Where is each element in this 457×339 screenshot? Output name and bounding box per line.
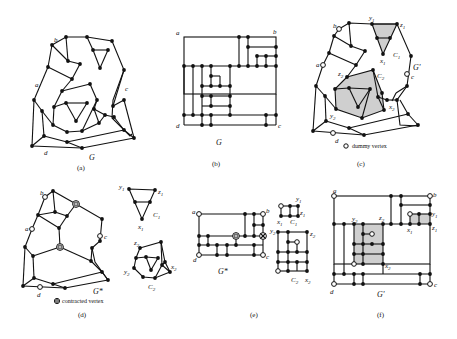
dummy-vertex-c xyxy=(261,253,266,258)
dummy-vertex-b xyxy=(337,27,342,32)
panel-a-graph: b a c d G (a) xyxy=(30,35,136,172)
panel-e-graph: a b c d G* (e) y1 z1 x1 C1 xyxy=(192,195,316,319)
dummy-vertex-d xyxy=(38,285,43,290)
graph-label-Gstar: G* xyxy=(93,287,103,296)
label-y2: y2 xyxy=(329,112,336,121)
dummy-vertex-b xyxy=(428,194,433,199)
label-C2: C2 xyxy=(148,283,156,292)
label-z2: z2 xyxy=(309,230,316,239)
dummy-vertex-c xyxy=(428,282,433,287)
graph-label-G: G xyxy=(216,138,222,147)
label-d: d xyxy=(335,137,339,145)
dummy-vertex-a xyxy=(30,227,35,232)
label-x2: x2 xyxy=(304,276,311,285)
label-b: b xyxy=(54,36,58,44)
label-x1: x1 xyxy=(276,218,283,227)
label-d: d xyxy=(44,149,48,157)
label-y2: y2 xyxy=(123,268,130,277)
panel-d-graph: b a c d G* contracted vertex (d) y1 z1 x… xyxy=(21,183,177,319)
panel-b-graph: a b c d G (b) xyxy=(176,28,282,168)
dummy-vertex-a xyxy=(197,212,202,217)
caption-d: (d) xyxy=(78,311,87,319)
label-z2: z2 xyxy=(337,70,344,79)
label-x2: x2 xyxy=(170,263,177,272)
label-c: c xyxy=(278,122,282,130)
label-C1: C1 xyxy=(393,51,400,60)
dummy-vertex-d xyxy=(332,282,337,287)
panel-c-graph: b a c d y1 z1 x1 C1 z2 C2 x2 y2 G' dummy… xyxy=(311,14,421,168)
label-d: d xyxy=(37,291,41,299)
label-z1: z1 xyxy=(399,21,405,30)
label-d: d xyxy=(176,122,180,130)
dummy-vertex-b xyxy=(261,212,266,217)
label-x1: x1 xyxy=(406,226,413,235)
caption-e: (e) xyxy=(250,311,258,319)
label-y2: y2 xyxy=(351,215,358,224)
caption-a: (a) xyxy=(77,164,85,172)
legend-dummy-vertex-icon xyxy=(344,144,348,148)
label-x1: x1 xyxy=(137,223,144,232)
label-c: c xyxy=(266,253,270,261)
label-c: c xyxy=(125,85,129,93)
legend-contracted-vertex: contracted vertex xyxy=(62,298,103,304)
label-C1: C1 xyxy=(153,211,160,220)
label-d: d xyxy=(193,256,197,264)
caption-b: (b) xyxy=(212,160,221,168)
dummy-vertex-c xyxy=(405,72,410,77)
label-a: a xyxy=(333,187,337,195)
legend-dummy-vertex: dummy vertex xyxy=(352,143,387,149)
label-a: a xyxy=(35,81,39,89)
figure-canvas: b a c d G (a) xyxy=(0,0,457,339)
dummy-vertex-a xyxy=(321,63,326,68)
graph-label-Gprime: G' xyxy=(413,63,421,72)
label-z1: z1 xyxy=(157,188,163,197)
label-b: b xyxy=(333,22,337,30)
dummy-vertex-d xyxy=(331,131,336,136)
label-C1: C1 xyxy=(290,218,297,227)
label-a: a xyxy=(25,225,29,233)
dummy-vertex-c xyxy=(98,234,103,239)
label-z1: z1 xyxy=(299,209,305,218)
label-b: b xyxy=(266,207,270,215)
label-z1: z1 xyxy=(431,224,437,233)
caption-c: (c) xyxy=(357,160,365,168)
label-y1: y1 xyxy=(295,195,302,204)
caption-f: (f) xyxy=(377,311,385,319)
graph-label-Gprime: G' xyxy=(377,290,385,299)
label-y1: y1 xyxy=(431,210,438,219)
label-b: b xyxy=(273,28,277,36)
label-a: a xyxy=(316,61,320,69)
dummy-vertex-d xyxy=(197,253,202,258)
label-d: d xyxy=(330,288,334,296)
label-z2: z2 xyxy=(378,214,385,223)
label-y1: y1 xyxy=(118,183,125,192)
label-x1: x1 xyxy=(379,57,386,66)
panel-f-graph: a b c d y2 z2 x2 y1 z1 x1 G' (f) xyxy=(330,187,438,319)
label-C2: C2 xyxy=(377,72,385,81)
label-x2: x2 xyxy=(384,262,391,271)
label-C2: C2 xyxy=(291,276,299,285)
label-z2: z2 xyxy=(133,239,140,248)
label-b: b xyxy=(433,191,437,199)
graph-label-G: G xyxy=(89,153,95,162)
label-x2: x2 xyxy=(388,103,395,112)
label-y1: y1 xyxy=(368,14,375,23)
label-c: c xyxy=(411,73,415,81)
label-c: c xyxy=(434,281,438,289)
label-y2: y2 xyxy=(269,227,276,236)
label-a: a xyxy=(192,208,196,216)
label-b: b xyxy=(40,189,44,197)
graph-label-Gstar: G* xyxy=(218,267,228,276)
label-c: c xyxy=(104,233,108,241)
label-a: a xyxy=(176,29,180,37)
